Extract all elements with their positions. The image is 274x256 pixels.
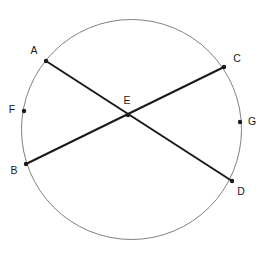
point-label-b: B xyxy=(10,164,17,176)
point-label-g: G xyxy=(248,115,256,127)
geometry-canvas: ACFEGBD xyxy=(0,0,274,256)
point-marker-e xyxy=(126,113,130,117)
chord-AD xyxy=(46,61,232,181)
point-marker-d xyxy=(230,179,234,183)
point-marker-a xyxy=(44,59,48,63)
chord-layer xyxy=(26,61,232,181)
circle-layer xyxy=(22,20,242,240)
point-label-a: A xyxy=(30,44,37,56)
point-marker-b xyxy=(24,162,28,166)
point-marker-c xyxy=(222,65,226,69)
point-marker-f xyxy=(22,109,26,113)
point-label-e: E xyxy=(123,94,130,106)
chord-BC xyxy=(26,67,224,164)
label-layer: ACFEGBD xyxy=(9,44,256,197)
circle-chords-diagram: ACFEGBD xyxy=(0,0,274,256)
circle xyxy=(22,20,242,240)
point-layer xyxy=(22,59,242,183)
point-label-c: C xyxy=(233,52,241,64)
point-label-d: D xyxy=(237,185,245,197)
point-label-f: F xyxy=(9,103,15,115)
point-marker-g xyxy=(238,120,242,124)
